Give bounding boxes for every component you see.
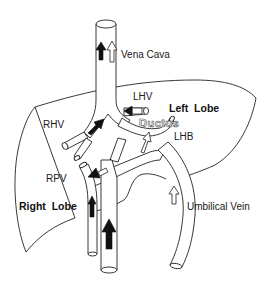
hepatic-circulation-diagram: Vena Cava LHV Left Lobe Ductus RHV LHB R… (0, 0, 267, 285)
label-ductus: Ductus (139, 117, 179, 129)
umbilical-open-arrow-icon (169, 186, 179, 204)
main-portal-vein (101, 160, 117, 273)
label-umbilical-vein: Umbilical Vein (187, 201, 250, 212)
label-rpv: RPV (46, 173, 67, 184)
label-rhv: RHV (43, 119, 64, 130)
label-right-lobe: Right Lobe (19, 200, 77, 212)
label-lhb: LHB (174, 131, 194, 142)
label-vena-cava: Vena Cava (121, 49, 170, 60)
label-left-lobe: Left Lobe (169, 102, 219, 114)
label-lhv: LHV (133, 91, 153, 102)
rhv-branches (61, 132, 92, 161)
central-duct (110, 138, 126, 162)
